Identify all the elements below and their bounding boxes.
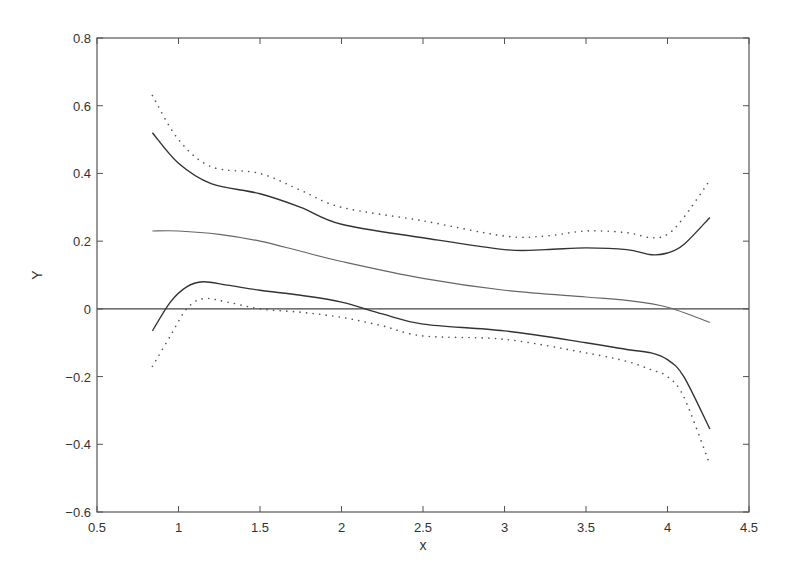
y-tick-label: −0.6 bbox=[65, 505, 91, 520]
series-layer bbox=[152, 96, 709, 465]
series-lower-band-solid bbox=[152, 282, 709, 429]
x-tick-label: 3.5 bbox=[577, 520, 595, 535]
y-tick-label: 0.6 bbox=[73, 99, 91, 114]
y-tick-label: −0.4 bbox=[65, 437, 91, 452]
x-tick-label: 1 bbox=[175, 520, 182, 535]
y-tick-label: 0 bbox=[84, 302, 91, 317]
x-tick-label: 2 bbox=[338, 520, 345, 535]
x-tick-label: 0.5 bbox=[88, 520, 106, 535]
chart: 0.511.522.533.544.5 −0.6−0.4−0.200.20.40… bbox=[0, 0, 797, 580]
x-tick-label: 4 bbox=[664, 520, 671, 535]
x-tick-label: 1.5 bbox=[251, 520, 269, 535]
y-tick-label: 0.8 bbox=[73, 31, 91, 46]
series-upper-band-dotted bbox=[152, 96, 709, 238]
series-lower-band-dotted bbox=[152, 298, 709, 464]
y-tick-label: 0.4 bbox=[73, 166, 91, 181]
axes-box bbox=[97, 38, 749, 512]
x-tick-label: 3 bbox=[501, 520, 508, 535]
x-axis-label: x bbox=[420, 537, 427, 553]
y-tick-label: −0.2 bbox=[65, 370, 91, 385]
x-tick-label: 4.5 bbox=[740, 520, 758, 535]
x-tick-label: 2.5 bbox=[414, 520, 432, 535]
y-axis-label: Y bbox=[29, 270, 45, 280]
y-tick-label: 0.2 bbox=[73, 234, 91, 249]
